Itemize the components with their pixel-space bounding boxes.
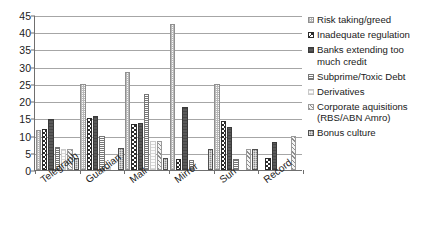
legend-item[interactable]: Subprime/Toxic Debt bbox=[308, 71, 436, 83]
legend-item-label: Corporate aquisitions (RBS/ABN Amro) bbox=[317, 101, 408, 124]
legend-item-label: Derivatives bbox=[317, 86, 364, 98]
derivatives-swatch bbox=[308, 89, 314, 95]
y-axis-tick-label: 30 bbox=[5, 62, 31, 73]
bar bbox=[42, 129, 47, 170]
bar-group bbox=[169, 16, 214, 170]
corporate-aquisitions-swatch bbox=[308, 104, 314, 110]
legend-item-label: Banks extending too much credit bbox=[317, 44, 404, 67]
bar bbox=[144, 94, 149, 170]
bar bbox=[252, 149, 257, 170]
x-axis-tick-mark bbox=[124, 170, 125, 174]
bar-group bbox=[80, 16, 125, 170]
subprime-toxic-debt-swatch bbox=[308, 74, 314, 80]
bar bbox=[36, 130, 41, 170]
x-axis-tick-mark bbox=[35, 170, 36, 174]
y-axis-tick-label: 0 bbox=[5, 166, 31, 177]
risk-taking-greed-swatch bbox=[308, 17, 314, 23]
bar-group bbox=[258, 16, 303, 170]
legend-item[interactable]: Corporate aquisitions (RBS/ABN Amro) bbox=[308, 101, 436, 124]
bar bbox=[138, 123, 143, 170]
bar bbox=[246, 149, 251, 170]
legend-item-label: Subprime/Toxic Debt bbox=[317, 71, 406, 83]
bar bbox=[208, 149, 213, 170]
legend-item-label: Bonus culture bbox=[317, 127, 376, 139]
chart-legend: Risk taking/greedInadequate regulationBa… bbox=[308, 14, 436, 142]
legend-item-label: Risk taking/greed bbox=[317, 14, 391, 26]
bar bbox=[170, 24, 175, 170]
bar bbox=[131, 124, 136, 170]
banks-extending-credit-swatch bbox=[308, 47, 314, 53]
y-axis-tick-label: 25 bbox=[5, 80, 31, 91]
x-axis-tick-mark bbox=[169, 170, 170, 174]
legend-item[interactable]: Risk taking/greed bbox=[308, 14, 436, 26]
bar bbox=[227, 127, 232, 170]
bonus-culture-swatch bbox=[308, 130, 314, 136]
bar bbox=[125, 72, 130, 171]
bar bbox=[176, 159, 181, 170]
legend-item[interactable]: Banks extending too much credit bbox=[308, 44, 436, 67]
bar bbox=[93, 116, 98, 170]
x-axis-tick-mark bbox=[80, 170, 81, 174]
x-axis-tick-mark bbox=[303, 170, 304, 174]
y-axis-tick-label: 45 bbox=[5, 11, 31, 22]
y-axis-tick-label: 40 bbox=[5, 28, 31, 39]
bar bbox=[150, 141, 155, 170]
plot-area: 051015202530354045TelegraphGuardianMailM… bbox=[34, 16, 302, 171]
legend-item[interactable]: Inadequate regulation bbox=[308, 29, 436, 41]
bar bbox=[182, 107, 187, 170]
bar bbox=[87, 118, 92, 170]
y-axis-tick-label: 35 bbox=[5, 45, 31, 56]
bar bbox=[80, 84, 85, 170]
y-axis-tick-label: 20 bbox=[5, 97, 31, 108]
bar bbox=[163, 158, 168, 170]
bar bbox=[157, 141, 162, 170]
x-axis-tick-mark bbox=[258, 170, 259, 174]
y-axis-tick-label: 15 bbox=[5, 114, 31, 125]
legend-item-label: Inadequate regulation bbox=[317, 29, 410, 41]
y-axis-tick-label: 5 bbox=[5, 149, 31, 160]
bar-group bbox=[124, 16, 169, 170]
bar bbox=[221, 121, 226, 170]
bar bbox=[48, 119, 53, 170]
bar bbox=[214, 84, 219, 170]
bar-group bbox=[214, 16, 259, 170]
y-axis-tick-label: 10 bbox=[5, 131, 31, 142]
x-axis-tick-mark bbox=[214, 170, 215, 174]
bar-group bbox=[35, 16, 80, 170]
inadequate-regulation-swatch bbox=[308, 32, 314, 38]
legend-item[interactable]: Derivatives bbox=[308, 86, 436, 98]
legend-item[interactable]: Bonus culture bbox=[308, 127, 436, 139]
bar-chart: 051015202530354045TelegraphGuardianMailM… bbox=[0, 0, 439, 235]
